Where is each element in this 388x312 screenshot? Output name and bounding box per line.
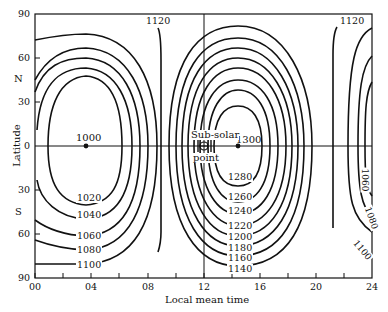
x-tick-04: 04 <box>81 282 101 292</box>
contour-label-1040: 1040 <box>76 210 102 220</box>
x-tick-12: 12 <box>194 282 214 292</box>
minimum-label: 1000 <box>76 133 101 143</box>
x-tick-08: 08 <box>138 282 158 292</box>
x-axis-title: Local mean time <box>165 294 249 305</box>
y-tick-30n: 30 <box>8 97 30 107</box>
y-axis-title: Latitude <box>11 124 22 168</box>
x-tick-20: 20 <box>306 282 326 292</box>
y-tick-60n: 60 <box>8 53 30 63</box>
contour-label-1200: 1200 <box>227 232 253 242</box>
contour-diagram: 90 60 30 0 30 60 90 N S Latitude 00 04 0… <box>0 0 388 312</box>
contour-label-1260: 1260 <box>227 192 253 202</box>
contour-label-1120-right: 1120 <box>339 16 365 26</box>
y-tick-30s: 30 <box>8 185 30 195</box>
x-tick-24: 24 <box>362 282 382 292</box>
contour-label-1140: 1140 <box>227 264 253 274</box>
contour-label-1020: 1020 <box>76 193 102 203</box>
hemisphere-south-label: S <box>15 207 22 217</box>
contour-label-1060: 1060 <box>76 231 102 241</box>
contour-label-1240: 1240 <box>227 206 253 216</box>
contour-label-1160: 1160 <box>227 253 253 263</box>
y-tick-90n: 90 <box>8 9 30 19</box>
minimum-marker <box>84 144 89 149</box>
contour-label-1280: 1280 <box>227 172 253 182</box>
contour-label-edge-1060: 1060 <box>360 168 370 193</box>
hemisphere-north-label: N <box>14 74 23 84</box>
maximum-label: 1300 <box>236 135 261 145</box>
x-tick-16: 16 <box>250 282 270 292</box>
contour-label-1080: 1080 <box>76 245 102 255</box>
contour-label-1100: 1100 <box>76 260 102 270</box>
subsolar-label-top: Sub-solar <box>191 130 239 140</box>
x-tick-00: 00 <box>25 282 45 292</box>
subsolar-label-bottom: point <box>193 153 219 163</box>
contour-label-1220: 1220 <box>227 221 253 231</box>
contour-label-1120-left: 1120 <box>145 16 171 26</box>
y-tick-60s: 60 <box>8 229 30 239</box>
